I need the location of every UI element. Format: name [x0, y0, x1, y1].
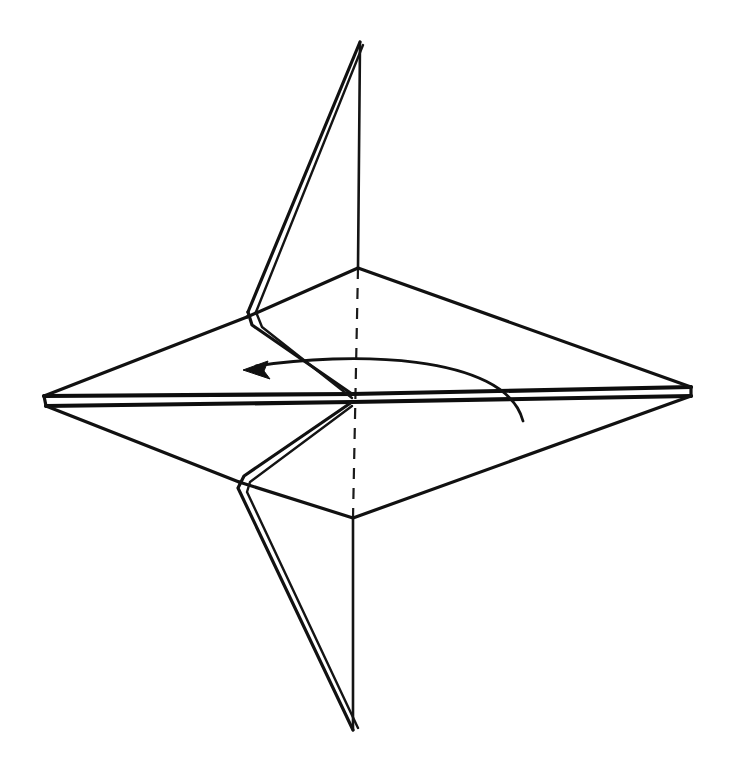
origami-diagram-figure: Line drawing of a folded paper model wit…	[0, 0, 730, 782]
left-point-wedge	[44, 396, 46, 406]
origami-diagram-canvas	[0, 0, 730, 782]
left-tip-cap	[44, 396, 46, 406]
figure-background	[0, 0, 730, 782]
